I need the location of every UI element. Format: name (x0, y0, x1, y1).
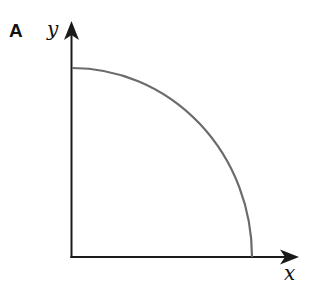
y-axis-label: y (46, 17, 59, 41)
y-axis (64, 21, 79, 258)
diagram-canvas: A y x (0, 0, 321, 285)
panel-label: A (9, 20, 23, 41)
curve (72, 68, 252, 257)
x-axis-label: x (284, 261, 295, 285)
x-axis (71, 250, 300, 265)
